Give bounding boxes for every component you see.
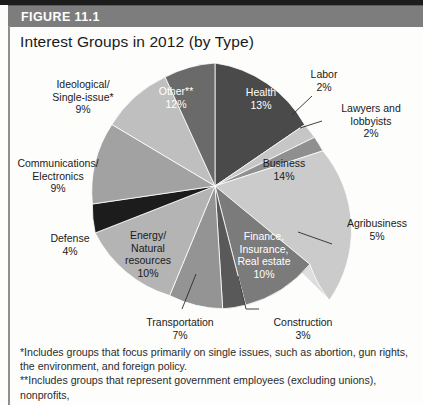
pie-label-transportation: Transportation 7% <box>125 316 235 341</box>
pie-label-agribusiness: Agribusiness 5% <box>336 217 418 242</box>
pie-label-finance-value: 10% <box>224 268 304 281</box>
figure-container: FIGURE 11.1 Interest Groups in 2012 (by … <box>0 0 423 405</box>
pie-label-communications-l2: Electronics <box>6 170 110 183</box>
pie-label-labor-value: 2% <box>296 81 352 94</box>
pie-label-finance-l3: Real estate <box>224 255 304 268</box>
pie-label-health-value: 13% <box>228 99 294 112</box>
pie-label-transportation-value: 7% <box>125 329 235 342</box>
pie-label-other-name: Other** <box>145 85 207 98</box>
pie-label-defense: Defense 4% <box>38 232 102 257</box>
pie-label-energy-l3: resources <box>110 254 186 267</box>
pie-label-communications-l1: Communications/ <box>6 157 110 170</box>
leader-line-labor <box>292 96 312 115</box>
pie-label-defense-name: Defense <box>38 232 102 245</box>
pie-label-ideological: Ideological/ Single-issue* 9% <box>28 78 138 116</box>
figure-note-other: **Includes groups that represent governm… <box>20 373 412 401</box>
pie-label-labor: Labor 2% <box>296 68 352 93</box>
figure-note-single-issue: *Includes groups that focus primarily on… <box>20 345 412 373</box>
figure-header-bar: FIGURE 11.1 <box>8 5 423 27</box>
pie-label-other-value: 12% <box>145 98 207 111</box>
pie-label-finance-l2: Insurance, <box>224 243 304 256</box>
pie-label-construction-name: Construction <box>258 316 348 329</box>
pie-label-energy: Energy/ Natural resources 10% <box>110 229 186 279</box>
pie-label-business: Business 14% <box>250 157 318 182</box>
pie-label-business-value: 14% <box>250 170 318 183</box>
pie-label-business-name: Business <box>250 157 318 170</box>
pie-label-ideological-value: 9% <box>28 103 138 116</box>
pie-label-agribusiness-value: 5% <box>336 230 418 243</box>
pie-label-energy-l1: Energy/ <box>110 229 186 242</box>
pie-label-defense-value: 4% <box>38 245 102 258</box>
pie-label-agribusiness-name: Agribusiness <box>336 217 418 230</box>
pie-label-other: Other** 12% <box>145 85 207 110</box>
pie-label-health-name: Health <box>228 86 294 99</box>
pie-label-lawyers-value: 2% <box>326 127 416 140</box>
pie-label-communications: Communications/ Electronics 9% <box>6 157 110 195</box>
pie-label-health: Health 13% <box>228 86 294 111</box>
figure-notes: *Includes groups that focus primarily on… <box>20 345 412 402</box>
pie-label-labor-name: Labor <box>296 68 352 81</box>
pie-label-energy-value: 10% <box>110 267 186 280</box>
pie-label-lawyers: Lawyers and lobbyists 2% <box>326 102 416 140</box>
pie-label-lawyers-l2: lobbyists <box>326 115 416 128</box>
pie-label-construction: Construction 3% <box>258 316 348 341</box>
pie-label-transportation-name: Transportation <box>125 316 235 329</box>
pie-label-finance-l1: Finance, <box>224 230 304 243</box>
pie-label-construction-value: 3% <box>258 329 348 342</box>
pie-label-ideological-l2: Single-issue* <box>28 91 138 104</box>
pie-label-energy-l2: Natural <box>110 242 186 255</box>
figure-number-label: FIGURE 11.1 <box>21 10 100 24</box>
figure-title: Interest Groups in 2012 (by Type) <box>20 33 254 51</box>
pie-label-ideological-l1: Ideological/ <box>28 78 138 91</box>
pie-label-lawyers-l1: Lawyers and <box>326 102 416 115</box>
pie-chart: Health 13% Business 14% Finance, Insuran… <box>0 52 423 337</box>
pie-label-communications-value: 9% <box>6 182 110 195</box>
pie-label-finance: Finance, Insurance, Real estate 10% <box>224 230 304 280</box>
